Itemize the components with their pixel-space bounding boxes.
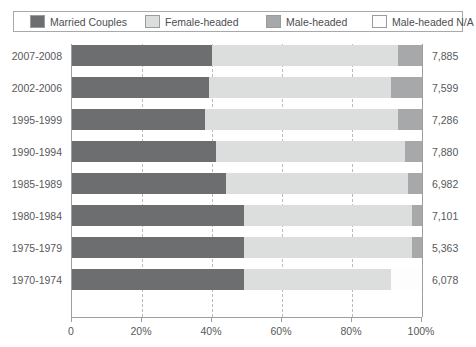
chart-legend: Married CouplesFemale-headedMale-headedM…	[13, 11, 463, 32]
legend-swatch-married	[30, 15, 45, 28]
bar-row[interactable]	[72, 45, 422, 66]
x-axis-line	[71, 317, 422, 318]
bar-segment-female[interactable]	[226, 173, 408, 194]
x-tick-label: 80%	[340, 325, 361, 337]
category-label: 1980-1984	[0, 210, 62, 222]
legend-swatch-male_na	[372, 15, 387, 28]
legend-label-male: Male-headed	[286, 16, 347, 28]
bar-row[interactable]	[72, 205, 422, 226]
legend-label-male_na: Male-headed N/A	[392, 16, 474, 28]
x-tick-mark	[211, 317, 212, 322]
category-label: 1995-1999	[0, 114, 62, 126]
legend-label-female: Female-headed	[165, 16, 239, 28]
bar-segment-female[interactable]	[244, 269, 391, 290]
bar-row[interactable]	[72, 141, 422, 162]
total-value-label: 5,363	[432, 242, 472, 254]
bar-segment-male[interactable]	[412, 205, 423, 226]
total-value-label: 7,286	[432, 114, 472, 126]
legend-item-male[interactable]: Male-headed	[266, 12, 347, 31]
total-value-label: 6,078	[432, 274, 472, 286]
category-label: 1985-1989	[0, 178, 62, 190]
plot-area	[71, 44, 423, 317]
bar-segment-male[interactable]	[391, 77, 423, 98]
bar-segment-married[interactable]	[72, 237, 244, 258]
category-label: 1990-1994	[0, 146, 62, 158]
x-tick-mark	[141, 317, 142, 322]
bar-segment-married[interactable]	[72, 45, 212, 66]
bar-segment-female[interactable]	[244, 205, 412, 226]
legend-swatch-male	[266, 15, 281, 28]
x-tick-mark	[351, 317, 352, 322]
category-label: 1970-1974	[0, 274, 62, 286]
total-value-label: 6,982	[432, 178, 472, 190]
legend-item-married[interactable]: Married Couples	[30, 12, 127, 31]
total-value-label: 7,599	[432, 82, 472, 94]
bar-segment-married[interactable]	[72, 77, 209, 98]
total-value-label: 7,101	[432, 210, 472, 222]
bar-segment-male[interactable]	[412, 237, 423, 258]
x-tick-mark	[281, 317, 282, 322]
total-value-label: 7,885	[432, 50, 472, 62]
legend-item-male_na[interactable]: Male-headed N/A	[372, 12, 474, 31]
bar-segment-male-na[interactable]	[391, 269, 423, 290]
bar-segment-male[interactable]	[405, 141, 423, 162]
bar-segment-married[interactable]	[72, 141, 216, 162]
category-label: 2002-2006	[0, 82, 62, 94]
bar-segment-female[interactable]	[244, 237, 412, 258]
x-tick-label: 100%	[408, 325, 435, 337]
x-tick-label: 40%	[200, 325, 221, 337]
bar-segment-married[interactable]	[72, 269, 244, 290]
category-label: 1975-1979	[0, 242, 62, 254]
bar-row[interactable]	[72, 109, 422, 130]
total-value-label: 7,880	[432, 146, 472, 158]
bar-segment-female[interactable]	[212, 45, 398, 66]
x-tick-label: 20%	[130, 325, 151, 337]
bar-row[interactable]	[72, 269, 422, 290]
bar-row[interactable]	[72, 77, 422, 98]
bar-segment-male[interactable]	[408, 173, 422, 194]
x-tick-mark	[421, 317, 422, 322]
bar-segment-male[interactable]	[398, 109, 423, 130]
stacked-bar-chart: Married CouplesFemale-headedMale-headedM…	[0, 0, 476, 347]
legend-swatch-female	[145, 15, 160, 28]
bar-segment-married[interactable]	[72, 109, 205, 130]
legend-label-married: Married Couples	[50, 16, 127, 28]
bar-segment-female[interactable]	[209, 77, 391, 98]
bar-row[interactable]	[72, 173, 422, 194]
bar-segment-female[interactable]	[205, 109, 398, 130]
bar-segment-female[interactable]	[216, 141, 405, 162]
bar-segment-married[interactable]	[72, 173, 226, 194]
bar-segment-male[interactable]	[398, 45, 423, 66]
bar-row[interactable]	[72, 237, 422, 258]
x-tick-mark	[71, 317, 72, 322]
bar-segment-married[interactable]	[72, 205, 244, 226]
category-label: 2007-2008	[0, 50, 62, 62]
x-tick-label: 60%	[270, 325, 291, 337]
legend-item-female[interactable]: Female-headed	[145, 12, 239, 31]
x-tick-label: 0	[68, 325, 74, 337]
